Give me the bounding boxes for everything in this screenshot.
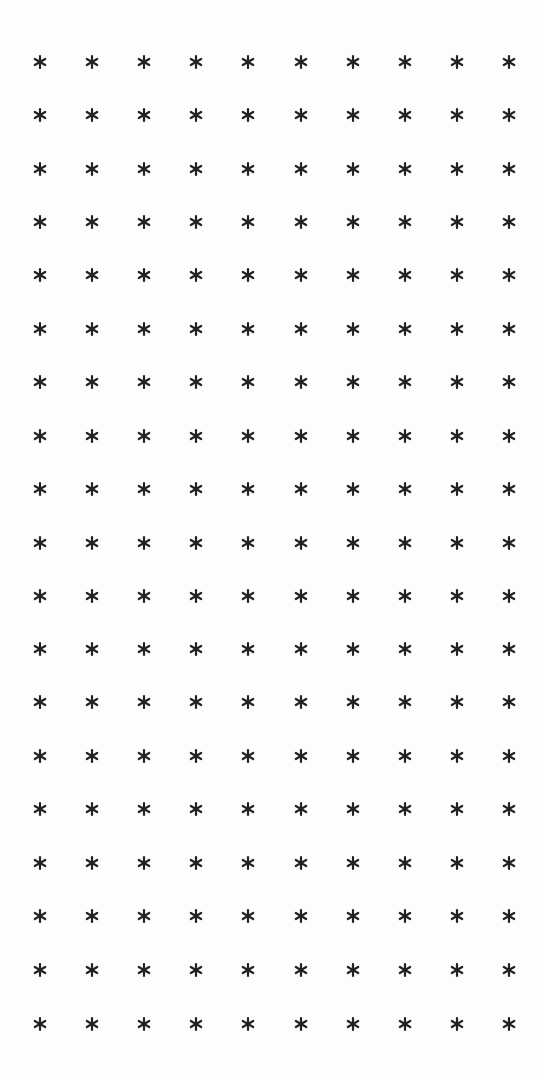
asterisk-icon [32, 641, 48, 657]
asterisk-icon [136, 588, 152, 604]
asterisk-icon [136, 214, 152, 230]
asterisk-icon [501, 908, 517, 924]
asterisk-icon [136, 267, 152, 283]
asterisk-icon [293, 428, 309, 444]
asterisk-icon [136, 908, 152, 924]
asterisk-icon [501, 1016, 517, 1032]
asterisk-icon [136, 481, 152, 497]
asterisk-icon [397, 855, 413, 871]
asterisk-icon [397, 481, 413, 497]
asterisk-icon [136, 748, 152, 764]
asterisk-icon [240, 321, 256, 337]
asterisk-icon [136, 801, 152, 817]
asterisk-icon [501, 321, 517, 337]
asterisk-icon [84, 374, 100, 390]
asterisk-icon [501, 855, 517, 871]
asterisk-icon [345, 1016, 361, 1032]
asterisk-icon [84, 641, 100, 657]
asterisk-icon [345, 214, 361, 230]
asterisk-icon [397, 107, 413, 123]
asterisk-icon [188, 428, 204, 444]
asterisk-icon [240, 161, 256, 177]
asterisk-icon [84, 214, 100, 230]
asterisk-icon [84, 962, 100, 978]
asterisk-icon [501, 694, 517, 710]
asterisk-icon [84, 908, 100, 924]
asterisk-icon [397, 588, 413, 604]
asterisk-icon [501, 107, 517, 123]
asterisk-icon [449, 481, 465, 497]
asterisk-icon [32, 107, 48, 123]
asterisk-icon [84, 321, 100, 337]
asterisk-icon [449, 1016, 465, 1032]
asterisk-icon [188, 694, 204, 710]
asterisk-icon [84, 428, 100, 444]
asterisk-icon [32, 214, 48, 230]
asterisk-icon [32, 908, 48, 924]
asterisk-icon [293, 748, 309, 764]
asterisk-icon [345, 694, 361, 710]
asterisk-icon [136, 161, 152, 177]
asterisk-icon [293, 908, 309, 924]
asterisk-icon [240, 267, 256, 283]
asterisk-icon [240, 908, 256, 924]
asterisk-icon [32, 374, 48, 390]
asterisk-icon [188, 588, 204, 604]
asterisk-icon [293, 267, 309, 283]
asterisk-icon [293, 321, 309, 337]
asterisk-icon [84, 161, 100, 177]
asterisk-icon [84, 107, 100, 123]
asterisk-icon [84, 267, 100, 283]
asterisk-icon [293, 694, 309, 710]
asterisk-icon [397, 267, 413, 283]
asterisk-icon [293, 1016, 309, 1032]
asterisk-icon [32, 1016, 48, 1032]
asterisk-icon [345, 535, 361, 551]
asterisk-icon [240, 107, 256, 123]
asterisk-icon [188, 214, 204, 230]
asterisk-icon [136, 107, 152, 123]
asterisk-icon [397, 641, 413, 657]
asterisk-icon [293, 374, 309, 390]
asterisk-icon [345, 107, 361, 123]
asterisk-icon [345, 374, 361, 390]
asterisk-icon [293, 161, 309, 177]
asterisk-icon [397, 694, 413, 710]
asterisk-icon [449, 107, 465, 123]
asterisk-icon [449, 855, 465, 871]
asterisk-icon [188, 481, 204, 497]
asterisk-icon [501, 641, 517, 657]
asterisk-icon [449, 908, 465, 924]
asterisk-icon [84, 535, 100, 551]
asterisk-icon [240, 855, 256, 871]
asterisk-icon [240, 588, 256, 604]
asterisk-icon [397, 962, 413, 978]
asterisk-icon [32, 428, 48, 444]
asterisk-icon [32, 535, 48, 551]
asterisk-icon [84, 748, 100, 764]
asterisk-icon [188, 641, 204, 657]
asterisk-icon [449, 641, 465, 657]
asterisk-icon [501, 481, 517, 497]
asterisk-icon [188, 535, 204, 551]
asterisk-icon [345, 54, 361, 70]
asterisk-icon [32, 588, 48, 604]
asterisk-icon [345, 428, 361, 444]
asterisk-icon [449, 962, 465, 978]
asterisk-icon [188, 962, 204, 978]
asterisk-icon [397, 428, 413, 444]
asterisk-icon [188, 374, 204, 390]
asterisk-icon [240, 801, 256, 817]
asterisk-icon [136, 321, 152, 337]
asterisk-icon [188, 748, 204, 764]
asterisk-icon [501, 535, 517, 551]
asterisk-icon [32, 748, 48, 764]
asterisk-icon [240, 374, 256, 390]
asterisk-icon [32, 267, 48, 283]
asterisk-icon [188, 1016, 204, 1032]
asterisk-icon [501, 267, 517, 283]
asterisk-icon [397, 374, 413, 390]
asterisk-icon [345, 908, 361, 924]
asterisk-icon [240, 54, 256, 70]
asterisk-icon [136, 374, 152, 390]
